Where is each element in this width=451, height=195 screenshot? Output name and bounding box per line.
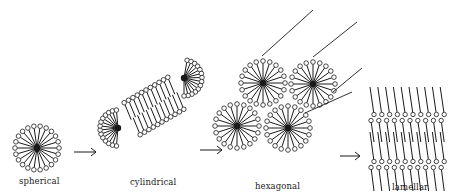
lipid-head (273, 143, 278, 148)
lipid-head (273, 108, 278, 113)
lipid-tail (387, 170, 390, 191)
lipid-head (261, 103, 266, 108)
lipid-head (20, 162, 25, 167)
lipid-tail (371, 123, 374, 142)
lipid-head (431, 165, 435, 169)
lipid-head (53, 134, 58, 139)
lipid-tail (403, 123, 406, 142)
lipid-head (261, 59, 266, 64)
micelle-core (34, 145, 40, 151)
lipid-head (14, 140, 19, 145)
lipid-head (228, 145, 233, 150)
lipid-tail (379, 123, 382, 142)
lipid-head (49, 129, 54, 134)
lipid-head (161, 78, 166, 83)
lipid-tail (434, 123, 437, 142)
lipid-tail (425, 87, 429, 112)
lipid-tail (434, 170, 437, 191)
lipid-head (274, 98, 279, 103)
lipid-tail (426, 123, 429, 142)
lipid-head (151, 125, 156, 130)
lipid-head (144, 88, 149, 93)
lipid-head (372, 159, 376, 163)
lipid-tail (129, 102, 135, 117)
lipid-head (403, 159, 407, 163)
lipid-tail (442, 123, 445, 142)
lipid-tail (432, 87, 436, 112)
lipid-head (248, 98, 253, 103)
lipid-tail (133, 118, 139, 133)
lipid-head (303, 113, 308, 118)
lipid-tail (169, 79, 175, 94)
lipid-head (282, 87, 287, 92)
lipid-head (32, 167, 37, 172)
lipid-head (20, 129, 25, 134)
lipid-head (235, 102, 240, 107)
lipid-head (380, 112, 384, 116)
lipid-head (135, 93, 140, 98)
lipid-tail (172, 95, 178, 110)
lipid-head (286, 104, 291, 109)
lipid-tail (138, 97, 144, 112)
lipid-tail (134, 100, 140, 115)
lipid-head (166, 75, 171, 80)
label-lamellar: lamellar (392, 182, 428, 192)
lipid-head (426, 112, 430, 116)
lipid-head (152, 83, 157, 88)
lipid-tail (371, 170, 374, 191)
lipid-head (400, 118, 404, 122)
hexagonal-rod-line (262, 10, 313, 56)
lipid-tail (146, 110, 152, 125)
lipid-head (49, 162, 54, 167)
lipid-head (289, 82, 294, 87)
lipid-head (377, 165, 381, 169)
lipid-head (254, 60, 259, 65)
lipid-head (278, 68, 283, 73)
lipid-head (267, 102, 272, 107)
lipid-head (411, 112, 415, 116)
lipid-head (431, 118, 435, 122)
lipid-head (57, 146, 62, 151)
lipid-head (423, 165, 427, 169)
lipid-head (408, 118, 412, 122)
lipid-head (44, 126, 49, 131)
lipid-head (213, 124, 218, 129)
lipid-head (419, 112, 423, 116)
micelle-core (285, 125, 291, 131)
lipid-tail (125, 105, 131, 120)
lipid-head (56, 152, 61, 157)
lipid-head (248, 141, 253, 146)
lipid-head (392, 165, 396, 169)
lipid-head (268, 139, 273, 144)
lipid-head (328, 69, 333, 74)
lipid-head (290, 88, 295, 93)
lipid-head (392, 118, 396, 122)
lipid-head (147, 127, 152, 132)
micelle-core (310, 81, 316, 87)
lipid-head (14, 152, 19, 157)
lipid-tail (379, 170, 382, 191)
lipid-head (157, 80, 162, 85)
lipid-tail (386, 87, 390, 112)
lipid-head (164, 117, 169, 122)
lipid-head (324, 64, 329, 69)
lipid-head (286, 148, 291, 153)
lipid-head (308, 126, 313, 131)
micelle-core (260, 80, 266, 86)
lipid-head (256, 130, 261, 135)
lipid-tail (393, 87, 397, 112)
micelle-core (234, 123, 240, 129)
lipid-head (439, 118, 443, 122)
lipid-head (56, 140, 61, 145)
lipid-head (252, 111, 257, 116)
lipid-head (264, 126, 269, 131)
lipid-head (307, 132, 312, 137)
lipid-head (122, 100, 127, 105)
lipid-head (240, 74, 245, 79)
micelle-core (181, 75, 187, 81)
lipid-head (248, 63, 253, 68)
lipid-head (279, 105, 284, 110)
lipid-head (434, 159, 438, 163)
lipid-head (265, 119, 270, 124)
lipid-head (254, 102, 259, 107)
